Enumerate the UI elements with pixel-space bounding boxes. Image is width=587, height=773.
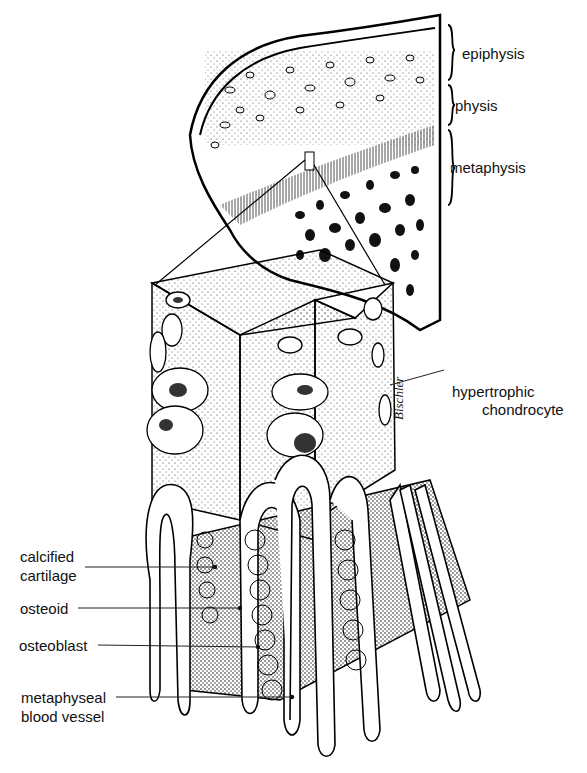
label-metaphyseal: metaphyseal [21,688,106,707]
label-osteoblast: osteoblast [19,636,87,655]
label-blood-vessel: blood vessel [21,707,104,726]
label-metaphysis: metaphysis [450,158,526,177]
label-epiphysis: epiphysis [462,44,525,63]
label-hypertrophic: hypertrophic [452,382,535,401]
label-cartilage: cartilage [20,566,77,585]
label-chondrocyte: chondrocyte [482,400,564,419]
label-calcified: calcified [20,547,74,566]
label-physis: physis [455,96,498,115]
label-osteoid: osteoid [20,599,68,618]
